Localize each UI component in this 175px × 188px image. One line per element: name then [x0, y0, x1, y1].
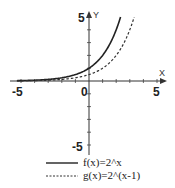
series-f-line — [17, 17, 121, 81]
legend: f(x)=2^x g(x)=2^(x-1) — [46, 156, 141, 182]
y-axis: Y 5 -5 — [72, 10, 99, 155]
x-tick-label-0: 0 — [81, 85, 88, 99]
x-tick-label-5: 5 — [153, 85, 160, 99]
y-tick-label-neg5: -5 — [72, 140, 83, 154]
y-axis-name: Y — [93, 10, 99, 20]
x-axis-name: X — [159, 68, 165, 78]
x-axis-arrow-icon — [160, 78, 167, 84]
exponential-chart: X -5 0 5 Y 5 -5 f(x)=2^x g(x)=2^(x-1) — [0, 0, 175, 188]
legend-label-g: g(x)=2^(x-1) — [83, 169, 141, 182]
legend-label-f: f(x)=2^x — [83, 156, 122, 169]
x-tick-label-neg5: -5 — [12, 85, 23, 99]
y-tick-label-5: 5 — [78, 11, 85, 25]
